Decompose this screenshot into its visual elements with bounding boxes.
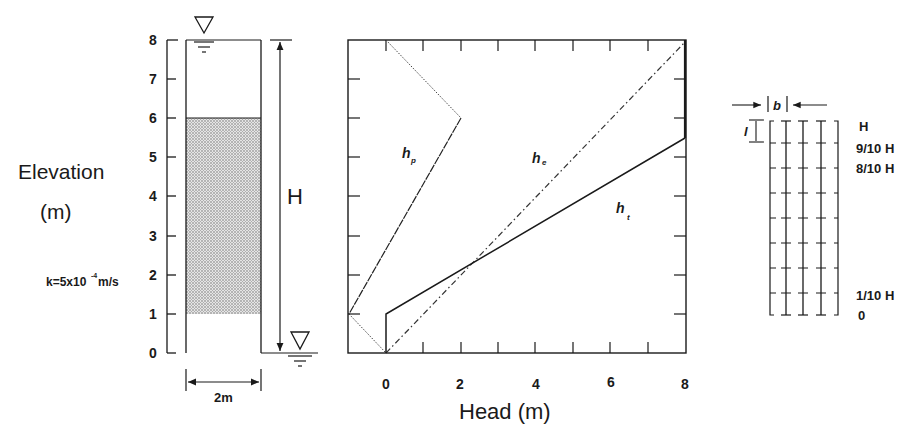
left-panel: Elevation (m) k=5x10 -4 m/s 0 1 2 3 4 5 … [18,17,318,405]
svg-text:e: e [542,158,547,167]
svg-text:k=5x10: k=5x10 [46,275,87,289]
y-tick-3: 3 [149,228,157,244]
chart-y-ticks [348,79,686,314]
y-tick-7: 7 [149,71,157,87]
label-elevation-head: h e [532,150,547,167]
svg-text:p: p [410,156,416,165]
elevation-head-line [386,42,685,353]
level-label-8-10H: 8/10 H [856,161,894,176]
x-tick-2: 2 [456,376,464,392]
svg-text:h: h [402,145,411,161]
lower-water-table-icon [288,332,312,366]
svg-text:m/s: m/s [98,275,119,289]
y-tick-2: 2 [149,267,157,283]
y-tick-4: 4 [149,188,157,204]
svg-text:h: h [532,150,541,166]
elevation-axis: 0 1 2 3 4 5 6 7 8 [149,32,178,361]
y-tick-8: 8 [149,32,157,48]
height-dimension: H [270,40,303,351]
b-label: b [773,98,781,113]
conductivity-label: k=5x10 -4 m/s [46,272,119,289]
diagram-canvas: Elevation (m) k=5x10 -4 m/s 0 1 2 3 4 5 … [0,0,910,429]
elevation-unit-label: (m) [40,200,71,223]
height-label: H [287,184,303,209]
x-tick-0: 0 [382,376,390,392]
discretization-grid: b l H 9/10 H [732,96,894,323]
pressure-head-line [349,40,461,353]
svg-text:h: h [616,200,625,216]
x-tick-4: 4 [532,376,540,392]
head-chart: h p h e h t 0 2 4 6 8 Head (m) [348,40,689,424]
svg-text:t: t [627,213,630,222]
x-tick-6: 6 [607,374,615,390]
x-axis-label: Head (m) [459,399,551,424]
soil-sample [186,118,261,314]
width-dimension: 2m [186,369,261,405]
label-total-head: h t [616,200,630,222]
width-label: 2m [214,390,233,405]
y-tick-0: 0 [149,345,157,361]
y-tick-1: 1 [149,306,157,322]
level-label-0: 0 [858,308,865,323]
y-tick-5: 5 [149,149,157,165]
upper-water-table-icon [194,17,214,52]
elevation-axis-label: Elevation [18,160,104,183]
label-pressure-head: h p [402,145,416,165]
x-tick-8: 8 [681,376,689,392]
level-label-H: H [859,119,868,134]
l-label: l [744,124,748,139]
level-label-9-10H: 9/10 H [856,141,894,156]
chart-x-ticks [386,40,648,353]
level-label-1-10H: 1/10 H [856,288,894,303]
y-tick-6: 6 [149,110,157,126]
svg-text:-4: -4 [91,272,97,279]
